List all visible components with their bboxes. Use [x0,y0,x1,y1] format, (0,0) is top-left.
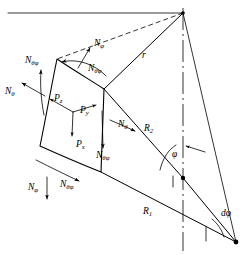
label-n-theta-phi-bottom: Nθφ [59,179,74,190]
bottom-edge-forces [36,160,79,199]
label-n-phi-top: Nφ [93,38,104,49]
r1-center-dot [234,240,239,245]
label-n-theta-phi-right: Nθφ [95,150,110,161]
label-angle-dphi: dφ [221,208,231,218]
label-radius-r2: R2 [143,123,154,134]
label-angle-phi: φ [172,149,177,159]
shell-element-face [40,59,104,172]
n-theta-left-arrow [22,83,45,96]
r2-center-dot [181,176,185,180]
dashed-upper-generator [57,13,183,59]
phi-leader-arrow [186,146,205,152]
n-theta-phi-left-arrow [41,70,44,115]
n-theta-phi-bottom-arrow [36,160,79,181]
label-n-phi-bottom: Nφ [27,182,38,193]
figure-canvas: Nθφ Nθ Nφ Nθφ Pz Py Px Nθ [0,0,251,255]
shell-element-figure: Nθφ Nθ Nφ Nθφ Pz Py Px Nθ [0,0,251,255]
label-n-theta-right: Nθ [117,119,128,130]
right-edge-forces [102,111,135,148]
label-n-theta-phi-top-inner: Nθφ [87,63,102,74]
shell-element [40,59,104,172]
angle-arcs [160,145,224,241]
label-n-theta-phi-top-left: Nθφ [24,55,39,66]
left-edge-forces [22,70,45,115]
label-radius-r1: R1 [142,206,152,217]
radius-r1-line [101,172,236,242]
figure-labels: Nθφ Nθ Nφ Nθφ Pz Py Px Nθ [4,38,231,218]
label-n-theta-left: Nθ [4,86,15,97]
label-radius-r: r [142,50,146,60]
apex-dot [181,11,185,15]
radius-r2-line-upper [104,89,183,178]
